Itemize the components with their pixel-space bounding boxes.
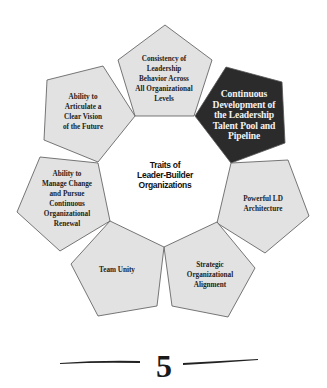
- trait-label-strategic-alignment: Strategic Organizational Alignment: [187, 260, 233, 290]
- trait-label-powerful-ld: Powerful LD Architecture: [243, 194, 283, 214]
- trait-label-team-unity: Team Unity: [99, 265, 135, 275]
- page-number: 5: [156, 350, 172, 382]
- footer-line-left: [60, 361, 140, 364]
- trait-label-manage-change: Ability to Manage Change and Pursue Cont…: [42, 169, 92, 229]
- trait-label-consistency: Consistency of Leadership Behavior Acros…: [135, 54, 192, 104]
- trait-label-continuous-development: Continuous Development of the Leadership…: [213, 89, 276, 142]
- footer-line-right: [183, 359, 258, 365]
- trait-label-clear-vision: Ability to Articulate a Clear Vision of …: [63, 92, 103, 132]
- center-title: Traits of Leader-Builder Organizations: [137, 160, 193, 190]
